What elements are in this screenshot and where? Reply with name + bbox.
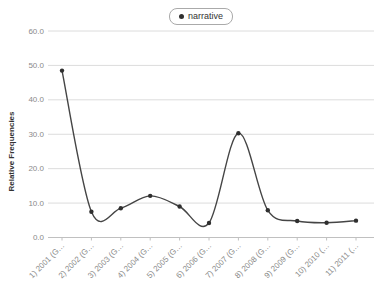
- data-point-marker: [60, 68, 64, 72]
- legend-label: narrative: [188, 12, 223, 21]
- line-plot: 60.050.040.030.020.010.00.01) 2001 (G…2)…: [0, 0, 391, 287]
- data-point-marker: [148, 194, 152, 198]
- data-point-marker: [119, 206, 123, 210]
- y-tick-label: 50.0: [28, 61, 44, 70]
- y-tick-label: 40.0: [28, 95, 44, 104]
- y-tick-label: 60.0: [28, 27, 44, 36]
- data-point-marker: [354, 218, 358, 222]
- data-point-marker: [89, 209, 93, 213]
- y-tick-label: 20.0: [28, 164, 44, 173]
- legend[interactable]: narrative: [169, 8, 233, 25]
- data-point-marker: [266, 208, 270, 212]
- y-tick-label: 10.0: [28, 199, 44, 208]
- data-point-marker: [207, 221, 211, 225]
- data-point-marker: [295, 219, 299, 223]
- data-point-marker: [324, 221, 328, 225]
- relative-frequencies-chart: narrative Relative Frequencies 60.050.04…: [0, 0, 391, 287]
- legend-marker-icon: [179, 14, 184, 19]
- data-point-marker: [236, 131, 240, 135]
- data-point-marker: [177, 204, 181, 208]
- y-tick-label: 30.0: [28, 130, 44, 139]
- y-tick-label: 0.0: [33, 233, 45, 242]
